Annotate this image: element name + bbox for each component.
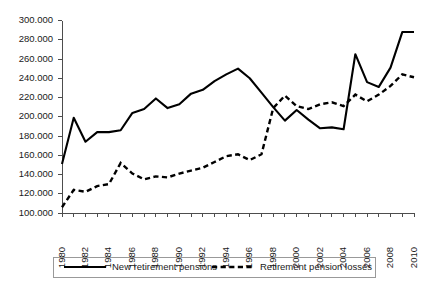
series-line-retirement-pension-losses xyxy=(62,74,414,207)
svg-text:240.000: 240.000 xyxy=(19,72,53,83)
x-tick-label: 2008 xyxy=(384,247,395,268)
svg-text:300.000: 300.000 xyxy=(19,14,53,25)
svg-text:180.000: 180.000 xyxy=(19,130,53,141)
x-tick-label: 2010 xyxy=(408,247,419,268)
svg-text:260.000: 260.000 xyxy=(19,53,53,64)
x-axis-tick-marks xyxy=(62,213,414,217)
line-chart: 100.000120.000140.000160.000180.000200.0… xyxy=(0,0,428,283)
svg-text:200.000: 200.000 xyxy=(19,110,53,121)
svg-text:100.000: 100.000 xyxy=(19,207,53,218)
legend-label-1: New retirement pensions xyxy=(112,261,217,272)
svg-text:120.000: 120.000 xyxy=(19,187,53,198)
y-axis-tick-labels: 100.000120.000140.000160.000180.000200.0… xyxy=(19,14,53,218)
svg-text:280.000: 280.000 xyxy=(19,33,53,44)
chart-container: 100.000120.000140.000160.000180.000200.0… xyxy=(0,0,428,283)
svg-text:160.000: 160.000 xyxy=(19,149,53,160)
x-tick-label: 1982 xyxy=(79,247,90,268)
legend-label-2: Retirement pension losses xyxy=(260,261,372,272)
x-tick-label: 1996 xyxy=(243,247,254,268)
y-axis-tick-marks xyxy=(58,21,62,214)
svg-text:220.000: 220.000 xyxy=(19,91,53,102)
svg-text:140.000: 140.000 xyxy=(19,168,53,179)
x-tick-label: 1994 xyxy=(220,247,231,268)
x-tick-label: 1980 xyxy=(56,247,67,268)
